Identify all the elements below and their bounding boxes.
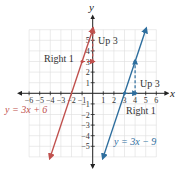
y-tick-label: −4 [81, 132, 90, 141]
x-tick-label: 1 [101, 96, 105, 105]
y-tick-label: 1 [86, 79, 90, 88]
x-axis-label: x [169, 87, 175, 99]
x-tick-label: 5 [144, 96, 148, 105]
y-axis-label: y [88, 1, 94, 13]
equation-blue: y = 3x − 9 [113, 136, 156, 147]
y-tick-label: −1 [81, 100, 90, 109]
point-marker [91, 60, 94, 63]
x-tick-label: 6 [154, 96, 158, 105]
annotation-up3-red: Up 3 [98, 35, 118, 46]
point-marker [91, 28, 94, 31]
y-tick-label: −2 [81, 111, 90, 120]
point-marker [134, 60, 137, 63]
x-tick-label: −3 [57, 96, 66, 105]
point-marker [81, 60, 84, 63]
equation-red: y = 3x + 6 [4, 104, 47, 115]
annotation-right1-blue: Right 1 [126, 105, 156, 116]
line-chart: −6−5−4−3−2−1123456−5−4−3−2−112345 y x y … [0, 0, 180, 183]
annotation-up3-blue: Up 3 [140, 78, 160, 89]
x-tick-label: 2 [112, 96, 116, 105]
annotation-right1-red: Right 1 [44, 53, 74, 64]
y-tick-label: −5 [81, 142, 90, 151]
x-tick-label: 4 [133, 96, 137, 105]
y-tick-label: −3 [81, 121, 90, 130]
y-tick-label: 2 [86, 68, 90, 77]
point-marker [123, 92, 126, 95]
point-marker [134, 92, 137, 95]
